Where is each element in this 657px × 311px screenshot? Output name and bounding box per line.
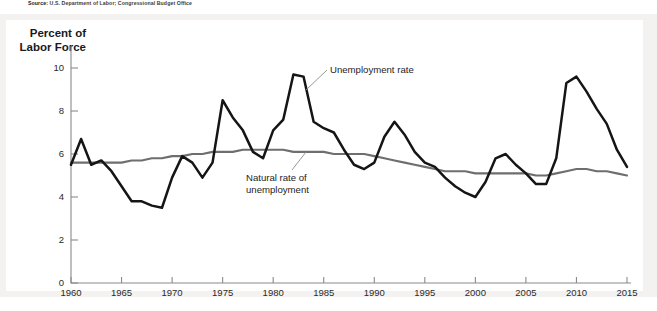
leader-line-natural xyxy=(292,152,306,170)
y-tick-label: 6 xyxy=(59,148,64,159)
line-chart: 0246810196019651970197519801985199019952… xyxy=(0,0,657,311)
x-tick-label: 1960 xyxy=(60,287,81,298)
series-unemployment-rate xyxy=(71,74,627,207)
x-tick-label: 2000 xyxy=(465,287,486,298)
leader-line-unemployment xyxy=(306,70,327,90)
series-natural-rate xyxy=(71,150,627,176)
y-tick-label: 2 xyxy=(59,234,64,245)
y-tick-label: 10 xyxy=(53,62,64,73)
y-tick-label: 8 xyxy=(59,105,64,116)
x-tick-label: 1965 xyxy=(111,287,132,298)
axis-lines xyxy=(71,46,631,283)
x-tick-label: 1970 xyxy=(162,287,183,298)
x-tick-label: 2005 xyxy=(515,287,536,298)
x-tick-label: 2010 xyxy=(566,287,587,298)
x-tick-label: 1990 xyxy=(364,287,385,298)
x-tick-label: 1985 xyxy=(313,287,334,298)
x-tick-label: 1980 xyxy=(263,287,284,298)
x-tick-label: 1975 xyxy=(212,287,233,298)
x-tick-label: 2015 xyxy=(616,287,637,298)
y-tick-label: 4 xyxy=(59,191,64,202)
x-tick-label: 1995 xyxy=(414,287,435,298)
chart-page: Source: U.S. Department of Labor; Congre… xyxy=(0,0,657,311)
